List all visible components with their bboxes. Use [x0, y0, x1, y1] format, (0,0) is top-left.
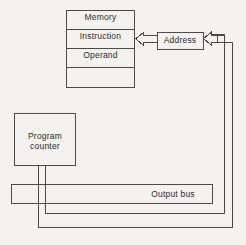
memory-block [67, 11, 135, 88]
diagram-vector-layer [0, 0, 246, 245]
memory-row-rect [67, 11, 135, 30]
operand-row-rect [67, 49, 135, 68]
diagram-canvas: Memory Instruction Operand Address Progr… [0, 0, 246, 245]
address-to-instruction-arrow [136, 33, 158, 46]
output-bus-rect [12, 185, 213, 204]
address-block-rect [158, 33, 204, 50]
program-counter-rect [15, 114, 76, 166]
instruction-row-rect [67, 30, 135, 49]
bus-to-address-arrow [204, 32, 218, 45]
empty-row-rect [67, 68, 135, 88]
